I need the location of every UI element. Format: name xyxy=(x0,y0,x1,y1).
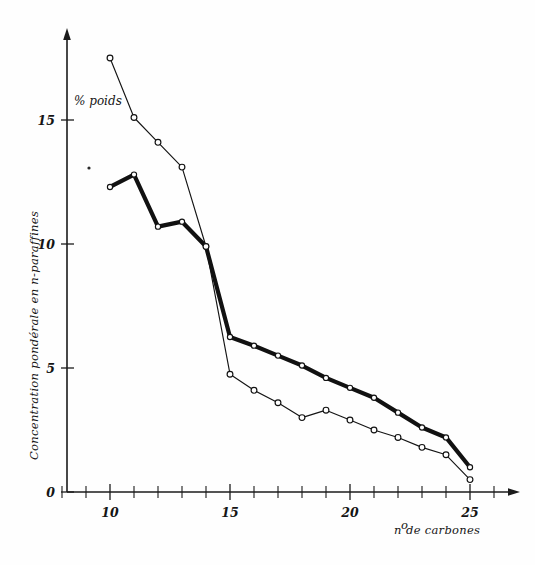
scan-speck xyxy=(87,166,90,169)
data-point-marker xyxy=(251,387,257,393)
data-point-marker xyxy=(443,452,449,458)
x-tick-label-25: 25 xyxy=(460,505,478,520)
data-point-marker xyxy=(419,444,425,450)
data-point-marker xyxy=(179,219,184,224)
data-point-marker xyxy=(395,410,400,415)
data-point-marker xyxy=(275,400,281,406)
data-point-marker xyxy=(347,417,353,423)
data-point-marker xyxy=(395,435,401,441)
x-axis-title-rest: de carbones xyxy=(406,523,480,537)
y-axis-arrowhead xyxy=(63,28,71,40)
x-tick-labels: 10 15 20 25 xyxy=(101,505,478,520)
data-point-marker xyxy=(299,363,304,368)
data-point-marker xyxy=(275,353,280,358)
data-point-marker xyxy=(419,425,424,430)
data-point-marker xyxy=(155,139,161,145)
data-point-marker xyxy=(131,115,137,121)
data-point-marker xyxy=(443,435,448,440)
data-series-layer xyxy=(107,55,473,482)
x-axis-title: n o de carbones xyxy=(394,518,480,537)
axis-group xyxy=(63,28,520,496)
data-point-marker xyxy=(467,477,473,483)
x-tick-label-10: 10 xyxy=(101,505,119,520)
data-point-marker xyxy=(179,164,185,170)
data-point-marker xyxy=(107,184,112,189)
data-point-marker xyxy=(323,407,329,413)
data-point-marker xyxy=(251,343,256,348)
series-line-courbe-epaisse xyxy=(110,175,470,468)
x-tick-label-20: 20 xyxy=(340,505,359,520)
data-point-marker xyxy=(155,224,160,229)
x-tick-label-15: 15 xyxy=(221,505,238,520)
data-point-marker xyxy=(227,371,233,377)
chart-figure: 15 10 5 0 xyxy=(0,0,535,565)
data-point-marker xyxy=(131,172,136,177)
data-point-marker xyxy=(107,55,113,61)
data-point-marker xyxy=(227,334,232,339)
y-tick-label-15: 15 xyxy=(38,113,55,128)
y-tick-label-0: 0 xyxy=(46,485,55,500)
data-point-marker xyxy=(203,244,209,250)
y-axis-title: Concentration pondérale en n-paraffines xyxy=(27,211,41,460)
data-point-marker xyxy=(323,375,328,380)
x-axis-arrowhead xyxy=(508,488,520,496)
y-tick-label-5: 5 xyxy=(46,361,55,376)
data-point-marker xyxy=(371,395,376,400)
data-point-marker xyxy=(299,415,305,421)
data-point-marker xyxy=(371,427,377,433)
data-point-marker xyxy=(347,385,352,390)
line-chart-plot: 15 10 5 0 xyxy=(0,0,535,565)
data-point-marker xyxy=(467,465,472,470)
y-unit-label: % poids xyxy=(74,94,122,108)
series-line-courbe-fine xyxy=(110,58,470,480)
